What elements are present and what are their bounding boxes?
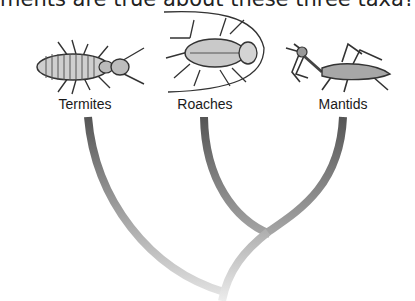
taxon-label-roaches: Roaches — [177, 96, 232, 112]
taxon-label-termites: Termites — [59, 96, 112, 112]
branch-roaches — [204, 117, 270, 234]
taxon-label-mantids: Mantids — [318, 96, 367, 112]
branch-mantids — [268, 117, 343, 232]
roach-illustration — [160, 8, 268, 96]
branch-roaches-mantids-stem — [222, 232, 268, 301]
termite-illustration — [28, 38, 148, 96]
mantid-illustration — [282, 42, 397, 94]
